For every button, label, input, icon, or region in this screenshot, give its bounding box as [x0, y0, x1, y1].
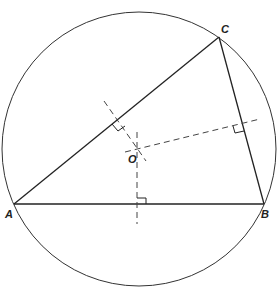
right-angle-ca: [112, 124, 125, 131]
circumcircle-diagram: A B C O: [0, 0, 277, 294]
label-o: O: [128, 153, 137, 165]
bisector-bc: [125, 119, 260, 152]
label-c: C: [221, 23, 230, 35]
side-bc: [219, 37, 264, 204]
right-angle-bc: [233, 126, 244, 133]
label-a: A: [4, 208, 13, 220]
side-ca: [14, 37, 219, 204]
label-b: B: [261, 208, 269, 220]
right-angle-ab: [137, 198, 146, 204]
